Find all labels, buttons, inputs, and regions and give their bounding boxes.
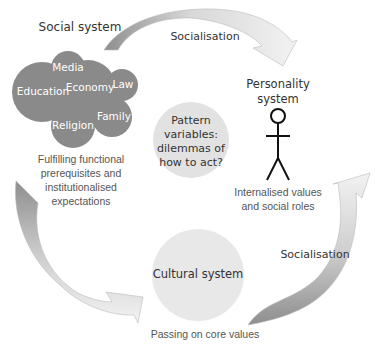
person-icon xyxy=(266,109,290,180)
media-label: Media xyxy=(48,61,88,73)
caption-line: Internalised values xyxy=(228,185,328,199)
socialisation-top-label: Socialisation xyxy=(160,30,250,43)
pattern-variables-text: Pattern variables: dilemmas of how to ac… xyxy=(153,114,229,170)
caption-line: expectations xyxy=(6,194,156,208)
social-system-title: Social system xyxy=(30,20,130,34)
text-line: Pattern xyxy=(153,114,229,128)
family-label: Family xyxy=(92,110,136,122)
social-system-caption: Fulfilling functional prerequisites and … xyxy=(6,152,156,208)
personality-caption: Internalised values and social roles xyxy=(228,185,328,213)
caption-line: Fulfilling functional xyxy=(6,152,156,166)
religion-label: Religion xyxy=(48,119,98,131)
title-line: system xyxy=(238,92,318,107)
caption-line: institutionalised xyxy=(6,180,156,194)
cultural-system-caption: Passing on core values xyxy=(135,328,275,340)
title-line: Personality xyxy=(238,77,318,92)
caption-line: prerequisites and xyxy=(6,166,156,180)
text-line: variables: xyxy=(153,128,229,142)
personality-system-title: Personality system xyxy=(238,77,318,107)
text-line: how to act? xyxy=(153,156,229,170)
socialisation-right-label: Socialisation xyxy=(270,248,360,261)
text-line: dilemmas of xyxy=(153,142,229,156)
cultural-system-title: Cultural system xyxy=(152,267,244,281)
caption-line: and social roles xyxy=(228,199,328,213)
law-label: Law xyxy=(108,78,138,90)
